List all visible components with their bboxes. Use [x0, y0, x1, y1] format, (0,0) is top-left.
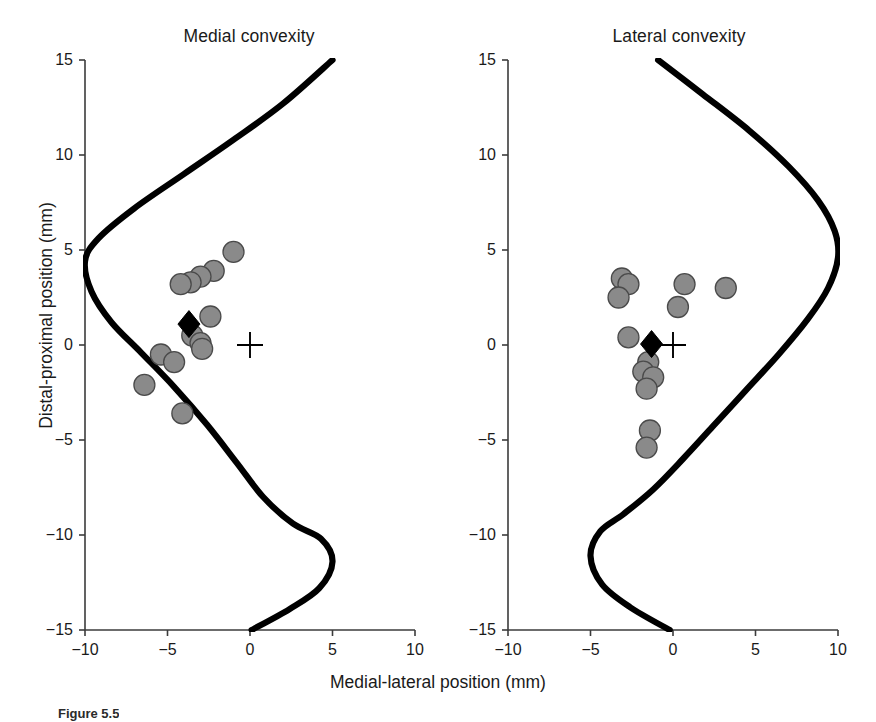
specimen-point-marker: [636, 378, 657, 399]
specimen-point-marker: [667, 297, 688, 318]
specimen-point-marker: [170, 274, 191, 295]
specimen-point-marker: [674, 274, 695, 295]
specimen-point-marker: [618, 327, 639, 348]
scatter-plot-medial: [0, 0, 440, 722]
y-tick-label: −15: [17, 622, 73, 638]
y-tick-label: 15: [440, 52, 496, 68]
y-tick-label: −10: [17, 527, 73, 543]
specimen-point-marker: [223, 241, 244, 262]
origin-cross-marker: [660, 332, 686, 358]
x-tick-label: −5: [561, 642, 621, 658]
y-tick-label: 10: [17, 147, 73, 163]
specimen-point-marker: [134, 374, 155, 395]
x-tick-label: 10: [808, 642, 868, 658]
figure-root: Medial convexity −15−10−5051015−10−50510…: [0, 0, 876, 722]
specimen-point-marker: [715, 278, 736, 299]
y-axis-label: Distal-proximal position (mm): [36, 166, 57, 466]
x-axis-ticks: [508, 630, 838, 636]
specimen-point-marker: [164, 352, 185, 373]
origin-cross-group: [660, 332, 686, 358]
figure-caption-label: Figure 5.5: [58, 706, 119, 722]
x-tick-label: 5: [303, 642, 363, 658]
plot-panel-lateral: Lateral convexity −15−10−5051015−10−5051…: [436, 0, 876, 722]
y-tick-label: 15: [17, 52, 73, 68]
plot-panel-medial: Medial convexity −15−10−5051015−10−50510: [0, 0, 440, 722]
specimen-point-marker: [172, 403, 193, 424]
x-tick-label: −5: [138, 642, 198, 658]
scatter-plot-lateral: [436, 0, 876, 722]
x-tick-label: 5: [726, 642, 786, 658]
specimen-point-marker: [608, 287, 629, 308]
x-tick-label: 0: [643, 642, 703, 658]
y-axis-ticks: [502, 60, 508, 630]
specimen-point-group: [608, 268, 736, 458]
y-tick-label: −10: [440, 527, 496, 543]
x-axis-label: Medial-lateral position (mm): [0, 672, 876, 693]
x-tick-label: −10: [478, 642, 538, 658]
origin-cross-group: [237, 332, 263, 358]
y-tick-label: 10: [440, 147, 496, 163]
y-tick-label: −5: [440, 432, 496, 448]
origin-cross-marker: [237, 332, 263, 358]
y-tick-label: −15: [440, 622, 496, 638]
x-tick-label: 0: [220, 642, 280, 658]
specimen-point-marker: [192, 338, 213, 359]
specimen-point-marker: [636, 437, 657, 458]
x-tick-label: −10: [55, 642, 115, 658]
specimen-point-marker: [200, 306, 221, 327]
y-axis-ticks: [79, 60, 85, 630]
y-tick-label: 0: [440, 337, 496, 353]
y-tick-label: 5: [440, 242, 496, 258]
